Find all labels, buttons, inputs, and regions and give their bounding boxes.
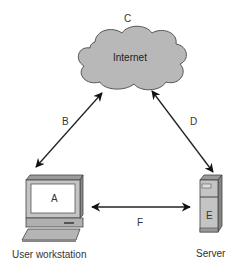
server-caption: Server: [196, 249, 225, 259]
edge-f-label: F: [137, 218, 143, 228]
server-tower-icon: [200, 175, 222, 232]
cloud-text-label: Internet: [113, 53, 147, 63]
workstation-computer-icon: [22, 175, 83, 242]
diagram-canvas: [0, 0, 243, 267]
edge-d-arrow: [152, 91, 213, 172]
edge-d-label: D: [190, 117, 197, 127]
server-letter-label: E: [206, 211, 213, 221]
edge-b-arrow: [36, 93, 102, 167]
edge-b-label: B: [62, 117, 69, 127]
workstation-caption: User workstation: [12, 250, 86, 260]
workstation-letter-label: A: [51, 194, 58, 204]
cloud-letter-label: C: [124, 14, 131, 24]
